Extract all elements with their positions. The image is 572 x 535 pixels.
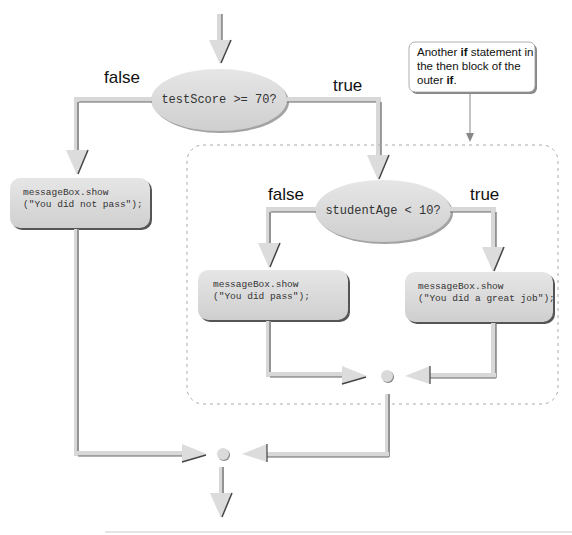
inner-false-connector bbox=[258, 207, 316, 268]
inner-false-merge-connector bbox=[266, 321, 367, 384]
outer-false-action-line1: messageBox.show bbox=[23, 187, 109, 199]
inner-true-action-line2: ("You did a great job"); bbox=[418, 293, 555, 305]
outer-true-connector bbox=[287, 97, 389, 180]
inner-false-action-line1: messageBox.show bbox=[213, 279, 299, 291]
inner-true-action-line1: messageBox.show bbox=[418, 281, 504, 293]
entry-arrow bbox=[209, 14, 231, 64]
outer-false-action-line2: ("You did not pass"); bbox=[23, 199, 143, 211]
inner-true-label: true bbox=[470, 186, 499, 203]
outer-condition-text: testScore >= 70? bbox=[151, 93, 287, 108]
inner-merge-point bbox=[381, 370, 394, 383]
callout-bold1: if bbox=[460, 46, 467, 58]
outer-false-label: false bbox=[104, 69, 140, 86]
outer-merge-point bbox=[217, 448, 230, 461]
inner-false-label: false bbox=[268, 186, 304, 203]
callout-part1: Another bbox=[417, 46, 460, 58]
inner-true-connector bbox=[450, 207, 504, 272]
outer-true-label: true bbox=[333, 77, 362, 94]
inner-false-action-line2: ("You did pass"); bbox=[213, 291, 310, 303]
exit-arrow bbox=[210, 467, 232, 518]
callout-part3: . bbox=[453, 74, 456, 86]
callout-text: Another if statement in the then block o… bbox=[417, 45, 535, 87]
inner-condition-text: studentAge < 10? bbox=[315, 204, 451, 219]
outer-false-connector bbox=[66, 97, 152, 175]
inner-true-merge-connector bbox=[405, 323, 496, 384]
callout-pointer bbox=[466, 93, 474, 142]
